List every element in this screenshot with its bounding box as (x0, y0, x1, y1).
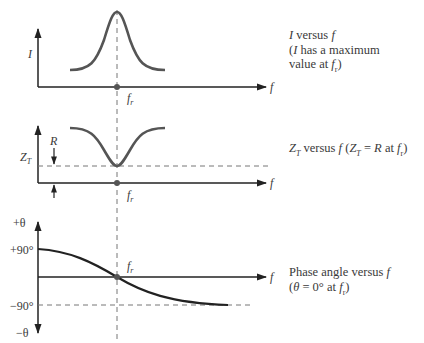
plus-90-tick-label: +90° (10, 243, 34, 257)
phase-graph (38, 222, 266, 333)
fr-marker-point (114, 274, 120, 280)
phase-caption-line2: (θ = 0° at fr) (289, 280, 390, 300)
fr-label: fr (127, 259, 133, 278)
minus-theta-label: −θ (16, 326, 29, 340)
f-axis-label: f (270, 270, 273, 284)
current-caption-line2: (I has a maximum (289, 43, 380, 58)
impedance-graph (38, 126, 270, 198)
fr-label: fr (127, 188, 133, 207)
current-caption: I versus f (I has a maximum value at fr) (289, 28, 380, 77)
f-axis-label: f (270, 80, 273, 94)
minus-90-tick-label: −90° (10, 299, 34, 313)
resistance-label: R (50, 134, 57, 148)
phase-caption-line1: Phase angle versus f (289, 265, 390, 280)
phase-caption: Phase angle versus f (θ = 0° at fr) (289, 265, 390, 300)
impedance-axis-label: ZT (20, 150, 31, 169)
current-caption-line3: value at fr) (289, 57, 380, 77)
current-graph (38, 12, 266, 90)
fr-label: fr (127, 91, 133, 110)
current-caption-line1: I versus f (289, 28, 380, 43)
fr-marker-point (114, 84, 120, 90)
fr-marker-point (114, 180, 120, 186)
plus-theta-label: +θ (13, 216, 26, 230)
impedance-caption: ZT versus f (ZT = R at fr) (289, 141, 407, 161)
f-axis-label: f (270, 176, 273, 190)
current-axis-label: I (28, 47, 32, 61)
